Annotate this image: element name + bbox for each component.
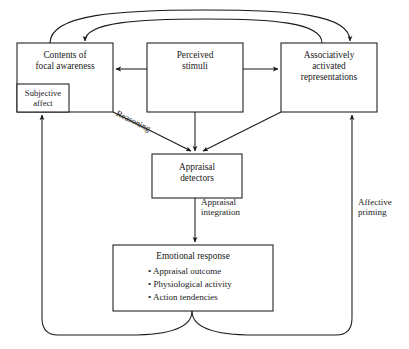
node-box-appraisal-detectors	[152, 154, 242, 198]
emotional-response-bullet-list: • Appraisal outcome • Physiological acti…	[148, 265, 232, 303]
list-item: • Action tendencies	[148, 291, 232, 304]
edge-label-appraisal-integration: Appraisal integration	[201, 197, 263, 218]
list-item: • Physiological activity	[148, 278, 232, 291]
edge-contents-to-representations-top	[50, 10, 350, 43]
edge-label-affective-priming: Affective priming	[358, 197, 408, 218]
appraisal-model-diagram: Contents of focal awareness Subjective a…	[0, 0, 409, 349]
node-box-perceived-stimuli	[147, 43, 243, 112]
node-box-subjective-affect	[17, 84, 69, 112]
edge-representations-to-contents-top	[85, 19, 322, 43]
node-box-associatively-activated-representations	[281, 43, 377, 112]
list-item: • Appraisal outcome	[148, 265, 232, 278]
edge-representations-to-detectors	[203, 112, 281, 151]
